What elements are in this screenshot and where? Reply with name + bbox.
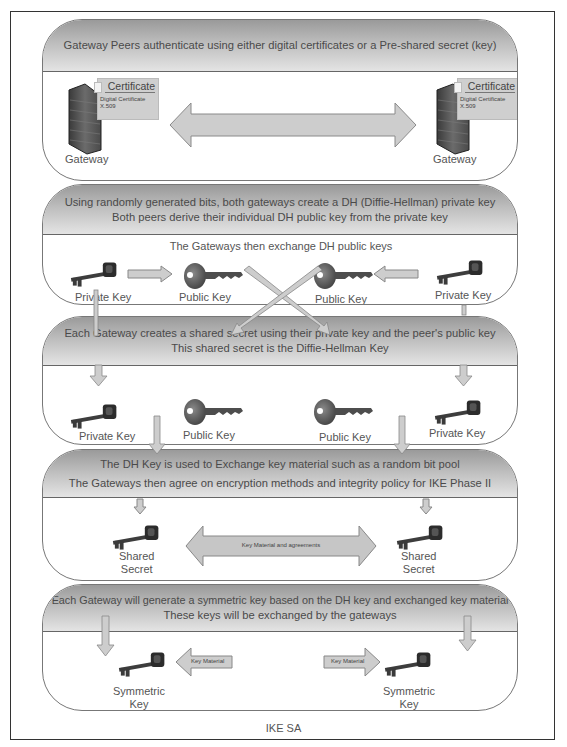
figure-caption: IKE SA — [0, 722, 567, 734]
connector-arrows — [0, 0, 567, 747]
